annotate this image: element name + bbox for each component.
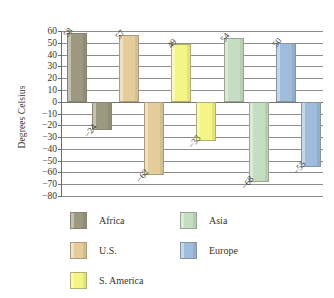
y-tick-mark — [58, 125, 62, 126]
y-tick-label: −50 — [42, 156, 57, 166]
bar-low-s-america — [196, 102, 216, 141]
bar-face — [249, 102, 269, 182]
y-tick-mark — [58, 114, 62, 115]
legend-item-africa[interactable]: Africa — [70, 212, 125, 229]
bar-chart: Degrees Celsius 6050403020100−10−20−30−4… — [0, 0, 334, 298]
y-tick-mark — [58, 172, 62, 173]
legend-swatch — [70, 272, 87, 289]
legend-label: Asia — [209, 215, 227, 226]
y-tick-mark — [58, 137, 62, 138]
y-tick-mark — [58, 55, 62, 56]
y-tick-label: −20 — [42, 120, 57, 130]
legend-swatch — [180, 242, 197, 259]
y-tick-mark — [58, 66, 62, 67]
bar-face — [171, 44, 191, 102]
legend-label: U.S. — [99, 245, 117, 256]
y-tick-label: −80 — [42, 191, 57, 201]
bar-high-u-s — [119, 35, 139, 102]
legend-label: Africa — [99, 215, 125, 226]
legend-label: Europe — [209, 245, 238, 256]
y-tick-label: 60 — [48, 26, 58, 36]
legend-swatch — [70, 242, 87, 259]
bar-low-asia — [249, 102, 269, 182]
bar-face — [144, 102, 164, 175]
y-tick-mark — [58, 78, 62, 79]
gridline — [62, 172, 323, 173]
legend-item-s-america[interactable]: S. America — [70, 272, 143, 289]
bar-high-africa — [67, 33, 87, 101]
y-tick-mark — [58, 161, 62, 162]
y-tick-mark — [58, 184, 62, 185]
bar-low-europe — [301, 102, 321, 167]
legend-swatch — [70, 212, 87, 229]
bar-high-s-america — [171, 44, 191, 102]
gridline — [62, 196, 323, 197]
bar-face — [301, 102, 321, 167]
y-tick-label: −30 — [42, 132, 57, 142]
bar-face — [119, 35, 139, 102]
bar-face — [224, 38, 244, 102]
y-tick-mark — [58, 149, 62, 150]
legend-label: S. America — [99, 275, 143, 286]
plot-area: 6050403020100−10−20−30−40−50−60−70−80 58… — [61, 31, 323, 197]
y-tick-label: 30 — [48, 61, 58, 71]
y-tick-mark — [58, 43, 62, 44]
y-tick-label: −70 — [42, 179, 57, 189]
y-tick-mark — [58, 102, 62, 103]
legend-item-u-s[interactable]: U.S. — [70, 242, 117, 259]
y-tick-label: 40 — [48, 50, 58, 60]
legend: AfricaU.S.S. AmericaAsiaEurope — [70, 212, 320, 292]
y-tick-label: 10 — [48, 85, 58, 95]
legend-item-asia[interactable]: Asia — [180, 212, 227, 229]
y-tick-label: 50 — [48, 38, 58, 48]
bar-face — [276, 43, 296, 102]
y-tick-label: −60 — [42, 167, 57, 177]
y-tick-label: −10 — [42, 109, 57, 119]
y-tick-mark — [58, 196, 62, 197]
bar-low-u-s — [144, 102, 164, 175]
legend-item-europe[interactable]: Europe — [180, 242, 238, 259]
gridline — [62, 184, 323, 185]
gridline — [62, 31, 323, 32]
y-tick-label: 0 — [52, 97, 57, 107]
bar-face — [67, 33, 87, 101]
y-tick-mark — [58, 90, 62, 91]
gridline — [62, 161, 323, 162]
bar-face — [196, 102, 216, 141]
y-tick-label: −40 — [42, 144, 57, 154]
y-tick-label: 20 — [48, 73, 58, 83]
bar-high-asia — [224, 38, 244, 102]
bar-high-europe — [276, 43, 296, 102]
legend-swatch — [180, 212, 197, 229]
y-axis-title: Degrees Celsius — [17, 57, 27, 177]
